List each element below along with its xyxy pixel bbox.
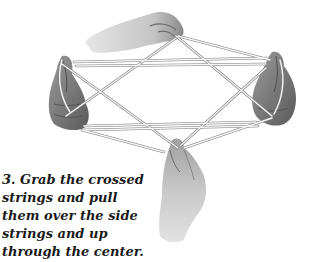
caption-line: strings and pull — [2, 189, 202, 207]
caption-line: 3. Grab the crossed — [2, 171, 202, 189]
step-caption: 3. Grab the crossed strings and pull the… — [2, 171, 202, 261]
string-loops — [60, 36, 283, 152]
caption-line: through the center. — [2, 243, 202, 261]
top-hand — [85, 12, 184, 53]
caption-line: strings and up — [2, 225, 202, 243]
caption-line: them over the side — [2, 207, 202, 225]
